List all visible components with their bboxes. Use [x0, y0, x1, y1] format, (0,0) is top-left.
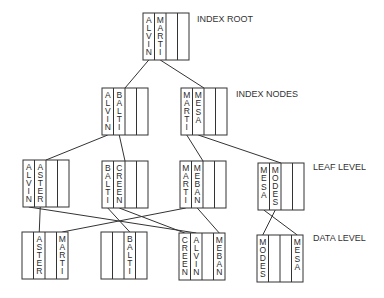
cell-key: MEBAN: [216, 235, 223, 278]
node-leaf3: MARTIMEBAN: [180, 161, 226, 208]
cell-letter: I: [118, 122, 120, 132]
cell-key: MESA: [294, 237, 301, 273]
node-data3: CREENALVINMEBAN: [179, 233, 225, 280]
cell-key: CREEN: [182, 235, 188, 278]
label-index-root: INDEX ROOT: [197, 14, 254, 24]
cell-letter: S: [272, 197, 278, 207]
label-leaf-level: LEAF LEVEL: [313, 162, 366, 172]
edge-idx1-leaf2: [119, 135, 125, 161]
cell-key: MEBAN: [194, 163, 201, 206]
cell-letter: I: [61, 266, 63, 276]
cell-letter: I: [186, 122, 188, 132]
cell-letter: N: [105, 122, 111, 132]
cell-key: ALVIN: [146, 15, 152, 58]
cell-letter: R: [37, 194, 43, 204]
nodes-layer: ALVINMARTIALVINBALTIMARTIMESAALVINASTERB…: [22, 13, 304, 282]
cell-key: ASTER: [36, 234, 42, 277]
node-leaf4: MESAMODES: [258, 163, 304, 210]
cell-letter: N: [193, 267, 199, 277]
node-data2: BALTI: [101, 232, 147, 279]
node-data1: ASTERMARTI: [22, 232, 68, 279]
cell-letter: I: [159, 47, 161, 57]
cell-key: ALVIN: [193, 235, 199, 278]
cell-key: MESA: [195, 90, 202, 126]
edge-idx2-leaf4: [198, 135, 281, 163]
cell-letter: I: [107, 195, 109, 205]
node-root: ALVINMARTI: [143, 13, 189, 60]
cell-key: MESA: [260, 165, 267, 201]
edge-idx2-leaf3: [187, 135, 203, 161]
node-data4: MODESMESA: [257, 235, 303, 282]
label-index-nodes: INDEX NODES: [236, 89, 298, 99]
cell-key: ALVIN: [105, 90, 111, 133]
cell-letter: A: [261, 190, 267, 200]
edges-layer: [29, 60, 298, 235]
edge-idx1-leaf1: [46, 135, 108, 160]
node-idx2: MARTIMESA: [181, 88, 227, 135]
cell-key: MODES: [259, 237, 266, 280]
cell-key: MODES: [272, 165, 279, 208]
cell-letter: I: [185, 195, 187, 205]
cell-letter: N: [194, 195, 200, 205]
edge-leaf2-data3: [119, 208, 185, 233]
btree-diagram: ALVINMARTIALVINBALTIMARTIMESAALVINASTERB…: [0, 0, 384, 298]
node-leaf1: ALVINASTER: [23, 160, 69, 207]
edge-root-idx1: [125, 60, 149, 88]
cell-letter: N: [116, 195, 122, 205]
cell-key: ALVIN: [26, 162, 32, 205]
cell-letter: A: [294, 262, 300, 272]
node-leaf2: BALTICREEN: [102, 161, 148, 208]
cell-letter: N: [216, 267, 222, 277]
node-idx1: ALVINBALTI: [102, 88, 148, 135]
edge-leaf3-data3: [197, 208, 219, 233]
cell-letter: N: [26, 194, 32, 204]
cell-letter: N: [146, 47, 152, 57]
cell-letter: N: [182, 267, 188, 277]
cell-key: CREEN: [116, 163, 122, 206]
cell-letter: R: [36, 266, 42, 276]
cell-key: ASTER: [37, 162, 43, 205]
cell-letter: S: [260, 269, 266, 279]
edge-leaf1-data1: [39, 207, 40, 232]
cell-letter: A: [195, 115, 201, 125]
edge-root-idx2: [160, 60, 204, 88]
label-data-level: DATA LEVEL: [313, 233, 366, 243]
cell-letter: I: [129, 266, 131, 276]
